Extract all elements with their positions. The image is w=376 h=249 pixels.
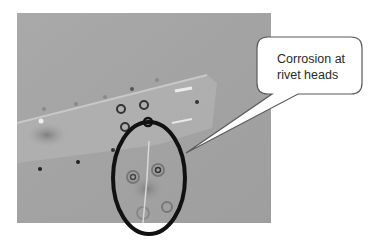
annotation-overlay [0,0,376,249]
callout-line-2: rivet heads [277,67,362,83]
highlight-ellipse [113,122,185,234]
callout-label: Corrosion at rivet heads [258,51,362,83]
callout-line-1: Corrosion at [277,51,362,67]
